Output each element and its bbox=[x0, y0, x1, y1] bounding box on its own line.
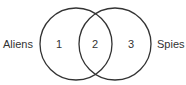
aliens-circle bbox=[40, 8, 112, 80]
region-2-label: 2 bbox=[92, 38, 98, 50]
region-3-label: 3 bbox=[128, 38, 134, 50]
aliens-label: Aliens bbox=[3, 38, 33, 50]
spies-circle bbox=[79, 8, 151, 80]
spies-label: Spies bbox=[157, 38, 185, 50]
venn-diagram: Aliens 1 2 3 Spies bbox=[0, 0, 186, 85]
region-1-label: 1 bbox=[56, 38, 62, 50]
